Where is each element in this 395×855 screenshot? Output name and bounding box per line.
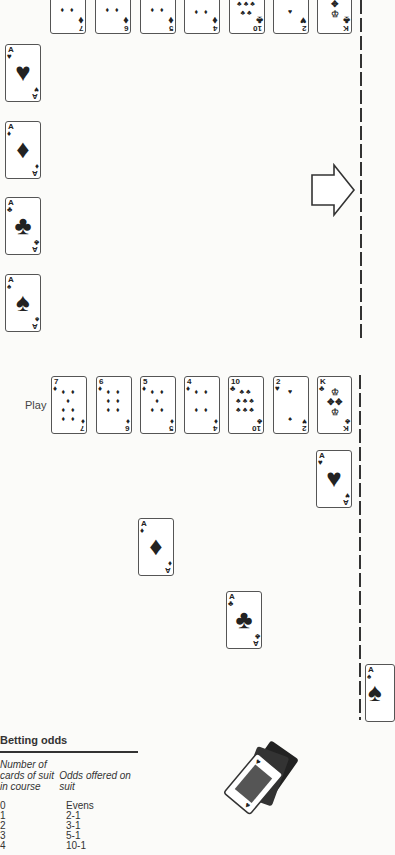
- advanced-ace-hearts: A ♥ ♥ ♥ A: [316, 450, 352, 508]
- odds-row: 410-1: [0, 841, 140, 851]
- card-ace-clubs: A ♣ ♣ ♣ A: [5, 197, 41, 255]
- card-5-diamonds: ♦ ♦ ♦ 5: [140, 0, 176, 34]
- advanced-ace-clubs: A ♣ ♣ ♣ A: [226, 591, 262, 649]
- header-count: Number of cards of suit in course: [0, 759, 59, 792]
- card-ace-spades: A ♠ ♠ ♠ A: [5, 274, 41, 332]
- card-7-diamonds: ♦ ♦ ♦ 7: [50, 0, 86, 34]
- betting-odds-rows: 0Evens 12-1 23-1 35-1 410-1: [0, 801, 140, 851]
- playing-cards-illustration: ♥ ♥: [220, 735, 300, 825]
- finish-line-lower: [359, 375, 361, 720]
- card-2-hearts: ♥ ♥ 2: [273, 0, 309, 34]
- card-10-clubs: ♣♣♣♣♣ ♣ 10: [229, 0, 265, 34]
- card-4-diamonds: ♦ ♦ ♦ 4: [184, 0, 220, 34]
- betting-odds-title: Betting odds: [0, 734, 138, 753]
- card-ace-hearts: A ♥ ♥ ♥ A: [5, 44, 41, 102]
- play-card-4-diamonds: 4 ♦ ♦ ♦♦ ♦ ♦ 4: [184, 376, 220, 434]
- play-card-7-diamonds: 7 ♦ ♦ ♦♦♦ ♦♦ ♦ ♦ 7: [51, 376, 87, 434]
- finish-line-upper: [360, 0, 362, 340]
- play-card-king-clubs: K ♣ ♔✥✥♔ ♣ K: [317, 376, 352, 434]
- play-card-2-hearts: 2 ♥ ♥♠ ♥ 2: [273, 376, 309, 434]
- betting-odds-table: Betting odds Number of cards of suit in …: [0, 734, 140, 851]
- advanced-ace-diamonds: A ♦ ♦ ♦ A: [138, 518, 174, 576]
- betting-odds-header: Number of cards of suit in course Odds o…: [0, 759, 140, 792]
- advanced-ace-spades: A ♠ ♠: [365, 664, 395, 722]
- card-king-clubs: ✥♔ ♣ K: [317, 0, 352, 34]
- header-odds: Odds offered on suit: [59, 759, 140, 792]
- right-arrow-icon: [310, 163, 356, 218]
- card-ace-diamonds: A ♦ ♦ ♦ A: [5, 121, 41, 179]
- play-card-5-diamonds: 5 ♦ ♦ ♦♦♦ ♦ ♦ 5: [140, 376, 176, 434]
- play-card-6-diamonds: 6 ♦ ♦ ♦♦ ♦♦ ♦ ♦ 6: [96, 376, 132, 434]
- play-label: Play: [25, 399, 46, 411]
- play-card-10-clubs: 10 ♣ ♣♣♣♣♣♣♣♣ ♣ 10: [228, 376, 264, 434]
- card-6-diamonds: ♦ ♦ ♦ 6: [95, 0, 131, 34]
